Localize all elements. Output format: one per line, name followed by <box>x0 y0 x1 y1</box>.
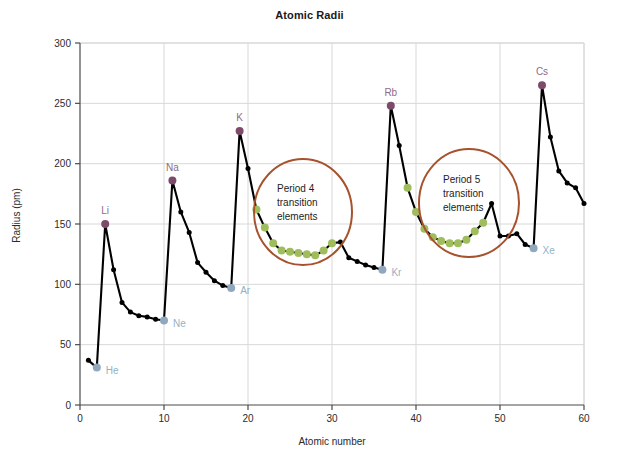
data-point <box>582 201 587 206</box>
data-point <box>212 278 217 283</box>
y-tick-label: 150 <box>54 219 71 230</box>
data-point <box>220 283 225 288</box>
element-label-ar: Ar <box>240 285 251 296</box>
x-tick-label: 30 <box>326 413 338 424</box>
element-label-na: Na <box>166 162 179 173</box>
data-point-noble-gas <box>160 317 168 325</box>
data-point-noble-gas <box>227 284 235 292</box>
data-point <box>346 255 351 260</box>
data-point-alkali <box>236 127 244 135</box>
data-point <box>372 265 377 270</box>
period-5-annotation-line: elements <box>443 202 484 213</box>
y-tick-label: 50 <box>60 339 72 350</box>
x-tick-label: 40 <box>410 413 422 424</box>
element-label-xe: Xe <box>543 245 556 256</box>
data-point <box>111 267 116 272</box>
data-point <box>178 209 183 214</box>
data-point-alkali <box>101 220 109 228</box>
data-point <box>145 314 150 319</box>
data-point-transition <box>286 248 294 256</box>
period-4-annotation-line: elements <box>277 211 318 222</box>
data-point <box>136 313 141 318</box>
data-point <box>573 185 578 190</box>
data-point-alkali <box>387 102 395 110</box>
data-point-alkali <box>168 177 176 185</box>
data-point-transition <box>328 239 336 247</box>
data-point-transition <box>437 237 445 245</box>
period-4-annotation-line: transition <box>277 197 318 208</box>
data-point <box>355 259 360 264</box>
atomic-radius-line <box>88 85 584 367</box>
y-tick-label: 250 <box>54 98 71 109</box>
data-point-noble-gas <box>530 244 538 252</box>
data-point-noble-gas <box>93 364 101 372</box>
data-point-transition <box>446 239 454 247</box>
data-point-transition <box>303 250 311 258</box>
data-point-transition <box>269 239 277 247</box>
data-point <box>204 270 209 275</box>
data-point <box>556 168 561 173</box>
data-point <box>489 201 494 206</box>
grid-lines <box>80 43 584 405</box>
data-point <box>548 135 553 140</box>
element-label-cs: Cs <box>536 66 548 77</box>
data-point <box>397 143 402 148</box>
data-point <box>86 358 91 363</box>
axis-ticks: 0501001502002503000102030405060 <box>54 38 590 425</box>
data-point <box>523 242 528 247</box>
data-point-transition <box>479 219 487 227</box>
data-point <box>187 230 192 235</box>
x-tick-label: 20 <box>242 413 254 424</box>
plot-area: 0501001502002503000102030405060 HeLiNeNa… <box>0 0 619 470</box>
data-point <box>565 180 570 185</box>
element-label-li: Li <box>101 205 109 216</box>
chart-figure: Atomic Radii Atomic number Radius (pm) 0… <box>0 0 619 470</box>
data-point <box>128 310 133 315</box>
data-point <box>120 300 125 305</box>
y-tick-label: 300 <box>54 38 71 49</box>
data-line <box>88 85 584 367</box>
period-5-annotation-line: transition <box>443 188 484 199</box>
data-point-noble-gas <box>378 266 386 274</box>
period-5-annotation-line: Period 5 <box>443 174 481 185</box>
y-tick-label: 100 <box>54 279 71 290</box>
data-point-transition <box>278 247 286 255</box>
data-point <box>153 317 158 322</box>
data-point-transition <box>471 227 479 235</box>
data-point-transition <box>311 251 319 259</box>
element-label-he: He <box>106 365 119 376</box>
data-point <box>363 263 368 268</box>
data-point-transition <box>294 249 302 257</box>
data-point <box>498 234 503 239</box>
x-tick-label: 50 <box>494 413 506 424</box>
period-4-annotation-line: Period 4 <box>277 183 315 194</box>
element-label-ne: Ne <box>173 318 186 329</box>
data-markers: HeLiNeNaArKKrRbXeCs <box>86 66 587 375</box>
data-point-transition <box>261 224 269 232</box>
data-point <box>246 166 251 171</box>
data-point <box>514 231 519 236</box>
y-tick-label: 200 <box>54 158 71 169</box>
data-point-transition <box>320 247 328 255</box>
element-label-kr: Kr <box>391 267 402 278</box>
data-point <box>195 260 200 265</box>
data-point-transition <box>462 236 470 244</box>
element-label-rb: Rb <box>384 87 397 98</box>
element-label-k: K <box>236 112 243 123</box>
data-point-transition <box>404 184 412 192</box>
x-tick-label: 60 <box>578 413 590 424</box>
y-tick-label: 0 <box>65 400 71 411</box>
data-point-alkali <box>538 81 546 89</box>
x-tick-label: 10 <box>158 413 170 424</box>
x-tick-label: 0 <box>77 413 83 424</box>
data-point-transition <box>454 239 462 247</box>
